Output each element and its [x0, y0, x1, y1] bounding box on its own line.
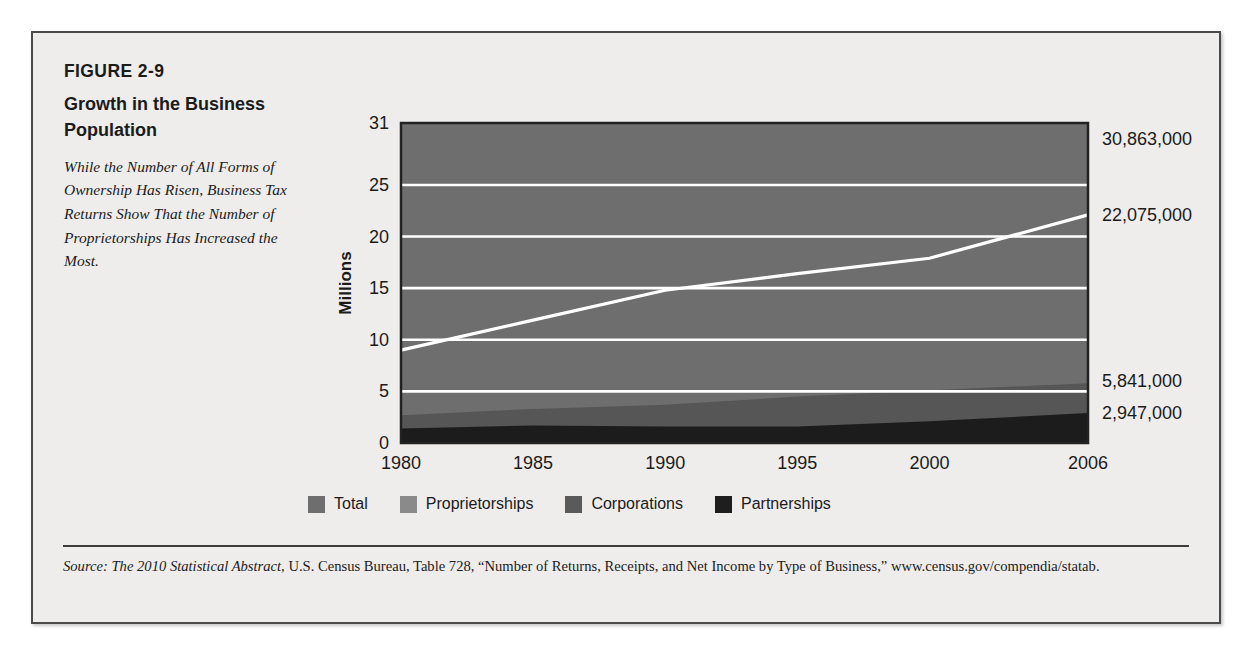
series-endpoint-labels: 30,863,00022,075,0005,841,0002,947,000	[1102, 129, 1192, 423]
x-tick-label: 2000	[909, 453, 949, 473]
source-lead: Source:	[63, 558, 112, 574]
x-tick-label: 2006	[1068, 453, 1108, 473]
legend-swatch-icon	[400, 496, 417, 513]
legend-swatch-icon	[715, 496, 732, 513]
source-title: The 2010 Statistical Abstract,	[112, 558, 285, 574]
figure-subtitle: While the Number of All Forms of Ownersh…	[64, 155, 294, 273]
y-tick-label: 5	[379, 381, 389, 401]
y-tick-label: 20	[369, 227, 389, 247]
legend-label: Total	[334, 495, 368, 513]
legend-item-proprietorships: Proprietorships	[400, 495, 534, 513]
legend-swatch-icon	[565, 496, 582, 513]
legend-item-total: Total	[308, 495, 368, 513]
legend-item-corporations: Corporations	[565, 495, 683, 513]
figure-frame: FIGURE 2-9 Growth in the Business Popula…	[31, 31, 1221, 624]
endpoint-label-proprietorships: 22,075,000	[1102, 205, 1192, 225]
y-axis-tick-labels: 051015202531	[369, 113, 389, 453]
y-axis-title: Millions	[336, 251, 355, 314]
endpoint-label-corporations: 5,841,000	[1102, 371, 1182, 391]
y-tick-label: 0	[379, 433, 389, 453]
legend-label: Partnerships	[741, 495, 831, 513]
x-axis-tick-labels: 198019851990199520002006	[381, 453, 1108, 473]
legend-label: Corporations	[591, 495, 683, 513]
figure-number: FIGURE 2-9	[64, 61, 294, 82]
figure-caption-column: FIGURE 2-9 Growth in the Business Popula…	[64, 61, 294, 273]
x-tick-label: 1995	[777, 453, 817, 473]
endpoint-label-partnerships: 2,947,000	[1102, 403, 1182, 423]
source-rest: U.S. Census Bureau, Table 728, “Number o…	[285, 558, 1100, 574]
y-tick-label: 25	[369, 175, 389, 195]
x-tick-label: 1980	[381, 453, 421, 473]
chart-plot-area	[401, 123, 1088, 443]
area-chart: 051015202531 198019851990199520002006 30…	[288, 58, 1208, 478]
legend-item-partnerships: Partnerships	[715, 495, 831, 513]
x-tick-label: 1985	[513, 453, 553, 473]
legend-label: Proprietorships	[426, 495, 534, 513]
y-tick-label: 31	[369, 113, 389, 133]
endpoint-label-total: 30,863,000	[1102, 129, 1192, 149]
source-divider	[63, 545, 1189, 547]
legend-swatch-icon	[308, 496, 325, 513]
y-tick-label: 10	[369, 330, 389, 350]
x-tick-label: 1990	[645, 453, 685, 473]
chart-container: 051015202531 198019851990199520002006 30…	[288, 58, 1208, 478]
figure-title: Growth in the Business Population	[64, 91, 294, 144]
y-tick-label: 15	[369, 278, 389, 298]
chart-legend: TotalProprietorshipsCorporationsPartners…	[308, 495, 831, 513]
source-note: Source: The 2010 Statistical Abstract, U…	[63, 556, 1191, 577]
